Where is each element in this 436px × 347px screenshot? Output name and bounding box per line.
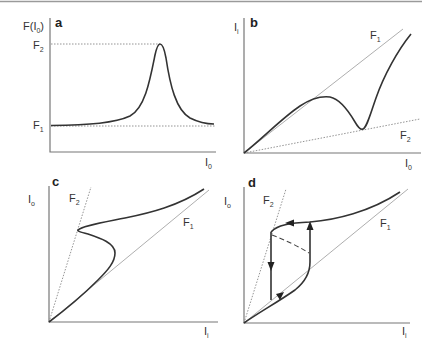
panel-b-x-axis-label: I0 [405, 157, 412, 171]
panel-a-label: a [55, 15, 63, 30]
panel-b-y-axis-label: Ii [234, 21, 239, 35]
figure-canvas: a F(I0) F2 F1 I0 b Ii I0 F1 F2 c Io Ii F… [0, 0, 436, 347]
panel-d-left-arrow-icon [285, 220, 294, 227]
panel-b-f2-line [244, 119, 420, 153]
panel-b-f2-label: F2 [400, 129, 411, 143]
panel-a-level-f2: F2 [33, 39, 44, 53]
panel-a-resonance-curve [51, 44, 214, 126]
panel-b: b Ii I0 F1 F2 [234, 15, 421, 171]
panel-c-s-curve [49, 189, 204, 322]
panel-d-down-arrow-icon [268, 262, 275, 271]
panel-d-y-axis-label: Io [224, 195, 231, 209]
panel-a-x-axis-label: I0 [205, 156, 212, 170]
panel-d-f1-line [244, 189, 408, 323]
panel-c-f1-label: F1 [183, 216, 194, 230]
panel-c-y-axis-label: Io [28, 193, 35, 207]
panel-a-y-axis-label: F(I0) [23, 20, 44, 34]
panel-a-axes [50, 18, 216, 152]
panel-c-label: c [52, 174, 59, 189]
panel-c-f2-line [49, 187, 91, 322]
panel-d-unstable-branch [272, 235, 309, 253]
panel-d-label: d [248, 175, 256, 190]
panel-d-f1-label: F1 [380, 217, 391, 231]
panel-a: a F(I0) F2 F1 I0 [23, 15, 216, 170]
panel-b-f1-label: F1 [370, 29, 381, 43]
panel-b-response-curve [244, 34, 411, 153]
panel-c-f2-label: F2 [69, 192, 80, 206]
panel-d-f2-line [244, 189, 286, 323]
panel-b-label: b [250, 15, 258, 30]
panel-d-lower-branch [244, 224, 310, 323]
panel-d-f2-label: F2 [263, 194, 274, 208]
panel-c: c Io Ii F2 F1 [28, 174, 218, 339]
panel-d: d Io Ii F2 F1 [224, 175, 410, 339]
panel-c-x-axis-label: Ii [204, 325, 209, 339]
panel-a-level-f1: F1 [33, 119, 44, 133]
panel-d-x-axis-label: Ii [402, 325, 407, 339]
